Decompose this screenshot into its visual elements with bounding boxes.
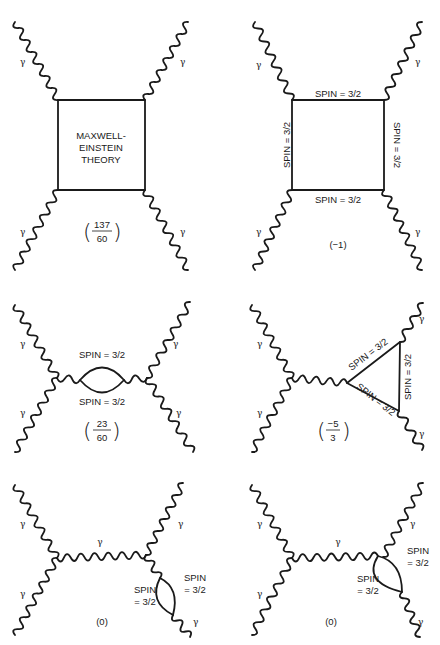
spin-label: = 3/2 — [184, 584, 205, 595]
coefficient-numerator: 137 — [94, 219, 110, 230]
coefficient-numerator: 23 — [97, 418, 108, 429]
gamma-label: γ — [193, 617, 198, 627]
photon-wavy-line — [146, 378, 195, 452]
gamma-label: γ — [418, 617, 423, 627]
coefficient-denominator: 60 — [97, 233, 108, 244]
photon-wavy-line — [57, 375, 80, 383]
spin-label: = 3/2 — [407, 557, 428, 568]
spin-3-2-bubble-loop — [156, 578, 175, 615]
gamma-label: γ — [20, 57, 25, 67]
coefficient-numerator: −5 — [328, 418, 339, 429]
spin-label: SPIN = 3/2 — [79, 349, 125, 360]
spin-label-left: SPIN = 3/2 — [281, 122, 292, 168]
gamma-label: γ — [256, 60, 261, 70]
gamma-label: γ — [20, 339, 25, 349]
photon-wavy-line — [292, 552, 378, 561]
gamma-label: γ — [257, 589, 262, 599]
left-paren: ( — [83, 418, 92, 443]
photon-wavy-line — [292, 375, 347, 385]
gamma-label: γ — [180, 227, 185, 237]
photon-wavy-line — [400, 592, 420, 637]
gamma-label: γ — [256, 227, 261, 237]
spin-label: SPIN — [184, 572, 206, 583]
spin-label: = 3/2 — [134, 596, 155, 607]
gamma-label: γ — [173, 339, 178, 349]
gamma-label: γ — [20, 227, 25, 237]
gamma-label: γ — [176, 408, 181, 418]
gamma-label: γ — [419, 429, 424, 439]
spin-3-2-bubble-loop — [80, 368, 124, 393]
coefficient-minus-1: (−1) — [329, 239, 346, 250]
spin-label-lower: SPIN = 3/2 — [355, 381, 398, 418]
gamma-label: γ — [178, 519, 183, 529]
coefficient-137-60: ( 137 60 ) — [83, 219, 122, 244]
coefficient-23-60: ( 23 60 ) — [83, 418, 121, 443]
gamma-label: γ — [257, 408, 262, 418]
spin-label: SPIN = 3/2 — [79, 396, 125, 407]
spin-label: SPIN — [407, 545, 429, 556]
gamma-label: γ — [20, 589, 25, 599]
coefficient-zero: (0) — [325, 616, 337, 627]
photon-wavy-line — [172, 615, 191, 637]
gamma-label: γ — [180, 57, 185, 67]
photon-lines — [13, 22, 423, 637]
spin-label-vertical: SPIN = 3/2 — [402, 354, 413, 400]
gamma-label: γ — [257, 519, 262, 529]
spin-label: SPIN = 3/2 — [315, 194, 361, 205]
gamma-label: γ — [410, 519, 415, 529]
gamma-label: γ — [20, 519, 25, 529]
spin-3-2-loop-box — [292, 100, 384, 190]
spin-label-right: SPIN = 3/2 — [392, 122, 403, 168]
gamma-label: γ — [335, 537, 340, 547]
left-paren: ( — [83, 219, 92, 244]
photon-wavy-line — [124, 375, 147, 383]
spin-label: = 3/2 — [357, 585, 378, 596]
right-paren: ) — [113, 219, 122, 244]
feynman-diagram-figure: ( 137 60 ) SPIN = 3/2 SPIN = 3/2 (−1) ( … — [0, 0, 440, 645]
diagram-labels: γγγγMAXWELL-EINSTEINTHEORYγγγγSPIN = 3/2… — [20, 57, 429, 627]
gamma-label: γ — [419, 314, 424, 324]
gamma-label: γ — [97, 537, 102, 547]
coefficient-zero: (0) — [96, 616, 108, 627]
right-paren: ) — [112, 418, 121, 443]
spin-label: SPIN — [357, 573, 379, 584]
diagram-maxwell-einstein-box: ( 137 60 ) — [58, 100, 145, 244]
gamma-label: γ — [415, 227, 420, 237]
diagram-spin-3-2-box: SPIN = 3/2 SPIN = 3/2 (−1) — [281, 100, 403, 250]
photon-wavy-line — [147, 302, 190, 378]
right-paren: ) — [342, 418, 351, 443]
coefficient-denominator: 60 — [97, 432, 108, 443]
coefficient-denominator: 3 — [330, 432, 335, 443]
coefficient-minus-5-3: ( −5 3 ) — [317, 418, 351, 443]
gamma-label: γ — [415, 57, 420, 67]
photon-wavy-line — [57, 552, 146, 562]
diagram-spin-3-2-triangle: SPIN = 3/2 SPIN = 3/2 SPIN = 3/2 ( −5 3 … — [317, 336, 413, 443]
left-paren: ( — [317, 418, 326, 443]
spin-label: MAXWELL- — [76, 130, 126, 141]
spin-label: SPIN = 3/2 — [315, 88, 361, 99]
gamma-label: γ — [20, 408, 25, 418]
spin-label: THEORY — [81, 154, 121, 165]
spin-label: EINSTEIN — [79, 142, 123, 153]
photon-wavy-line — [144, 555, 161, 578]
spin-label: SPIN — [134, 584, 156, 595]
gamma-label: γ — [257, 339, 262, 349]
